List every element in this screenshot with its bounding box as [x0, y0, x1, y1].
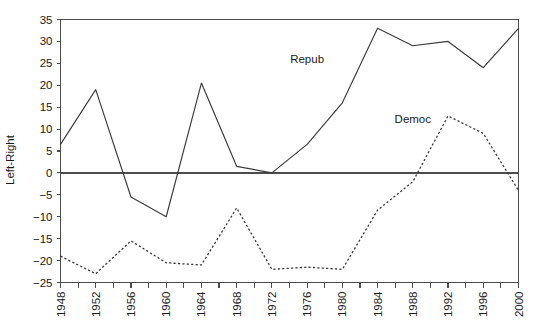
y-tick-label: 25: [40, 57, 53, 69]
y-tick-label: 30: [40, 35, 53, 47]
x-tick-label: 1992: [442, 292, 454, 318]
y-tick-label: 10: [40, 123, 53, 135]
x-axis: 1948195219561960196419681972197619801984…: [55, 283, 525, 318]
x-tick-label: 1976: [301, 292, 313, 318]
x-tick-label: 1964: [195, 291, 207, 317]
x-tick-label: 1972: [266, 292, 278, 318]
series-label-democ: Democ: [395, 113, 432, 125]
y-tick-label: −25: [33, 277, 53, 289]
chart-container: Left-Right −25−20−15−10−505101520253035 …: [0, 0, 535, 332]
x-tick-label: 2000: [513, 292, 525, 318]
y-tick-label: 0: [46, 167, 52, 179]
y-tick-label: 5: [46, 145, 52, 157]
x-tick-label: 1980: [336, 292, 348, 318]
series-label-repub: Repub: [290, 53, 324, 65]
x-tick-label: 1960: [160, 292, 172, 318]
x-tick-label: 1952: [90, 292, 102, 318]
y-tick-label: 20: [40, 79, 53, 91]
series-line-democ: [61, 116, 519, 274]
left-right-line-chart: Left-Right −25−20−15−10−505101520253035 …: [0, 0, 535, 332]
y-axis-title: Left-Right: [4, 134, 16, 185]
x-tick-label: 1988: [407, 292, 419, 318]
x-tick-label: 1996: [477, 292, 489, 318]
y-tick-label: 15: [40, 101, 53, 113]
x-tick-label: 1968: [231, 292, 243, 318]
y-tick-label: −5: [39, 189, 52, 201]
y-axis: −25−20−15−10−505101520253035: [33, 14, 61, 289]
x-tick-label: 1956: [125, 292, 137, 318]
y-tick-label: −10: [33, 211, 53, 223]
y-tick-label: 35: [40, 14, 53, 26]
y-axis-title-text: Left-Right: [4, 134, 16, 185]
x-tick-label: 1984: [372, 291, 384, 317]
x-tick-label: 1948: [55, 292, 67, 318]
y-tick-label: −15: [33, 233, 53, 245]
y-tick-label: −20: [33, 255, 53, 267]
